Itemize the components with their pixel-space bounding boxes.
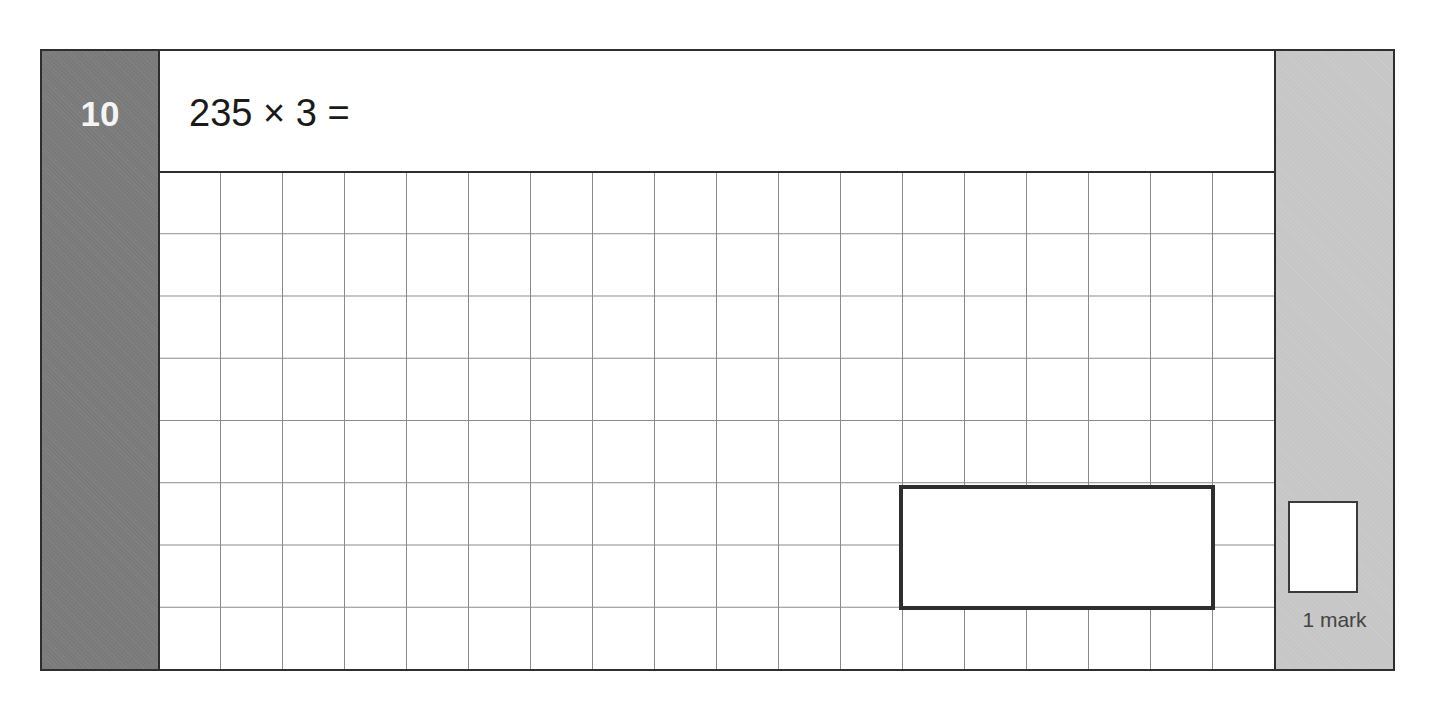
marks-column: 1 mark [1274, 49, 1395, 671]
answer-box[interactable] [899, 485, 1215, 610]
mark-box [1288, 501, 1358, 593]
question-number-column: 10 [40, 49, 160, 671]
question-number: 10 [42, 94, 158, 134]
question-text: 235 × 3 = [189, 92, 350, 135]
question-header: 235 × 3 = [158, 49, 1276, 173]
frame-bottom-border [40, 669, 1395, 671]
marks-label: 1 mark [1276, 608, 1393, 632]
